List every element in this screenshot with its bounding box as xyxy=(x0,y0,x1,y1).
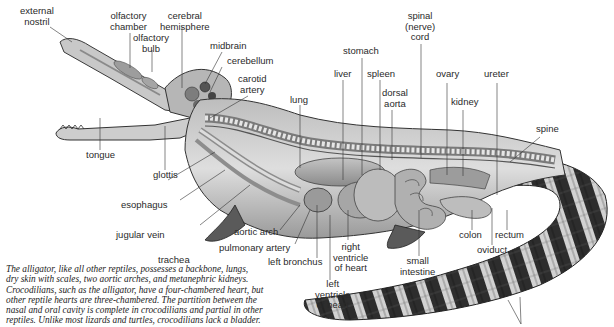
label-carotid-artery: carotid artery xyxy=(238,74,267,95)
caption-line: nasal and oral cavity is complete in cro… xyxy=(6,305,306,315)
label-jugular-vein: jugular vein xyxy=(116,230,165,241)
label-lung: lung xyxy=(290,95,308,106)
label-kidney: kidney xyxy=(451,97,478,108)
label-cerebral-hemisphere: cerebral hemisphere xyxy=(160,11,210,32)
caption-line: reptiles. Unlike most lizards and turtle… xyxy=(6,315,306,325)
label-pulmonary-artery: pulmonary artery xyxy=(219,243,290,254)
label-olfactory-chamber: olfactory chamber xyxy=(110,11,147,32)
alligator-anatomy-diagram: external nostril olfactory chamber olfac… xyxy=(0,0,614,327)
label-glottis: glottis xyxy=(153,170,178,181)
label-esophagus: esophagus xyxy=(121,200,167,211)
label-spine: spine xyxy=(536,124,559,135)
label-right-ventricle: right ventricle of heart xyxy=(333,242,368,274)
label-tongue: tongue xyxy=(86,150,115,161)
figure-caption: The alligator, like all other reptiles, … xyxy=(6,264,306,326)
caption-line: Crocodilians, such as the alligator, hav… xyxy=(6,285,306,295)
caption-line: dry skin with scales, two aortic arches,… xyxy=(6,274,306,284)
heart xyxy=(304,188,332,212)
label-midbrain: midbrain xyxy=(210,41,246,52)
label-colon: colon xyxy=(459,230,482,241)
label-ureter: ureter xyxy=(484,69,509,80)
label-left-ventricle: left ventricle of heart xyxy=(315,279,350,311)
label-oviduct: oviduct xyxy=(477,245,507,256)
label-liver: liver xyxy=(334,69,351,80)
label-spinal-cord: spinal (nerve) cord xyxy=(405,11,435,43)
label-aortic-arch: aortic arch xyxy=(234,227,278,238)
caption-line: other reptile hearts are three-chambered… xyxy=(6,295,306,305)
label-dorsal-aorta: dorsal aorta xyxy=(382,88,408,109)
label-small-intestine: small intestine xyxy=(400,256,435,277)
label-cerebellum: cerebellum xyxy=(227,56,273,67)
label-rectum: rectum xyxy=(495,230,524,241)
caption-line: The alligator, like all other reptiles, … xyxy=(6,264,306,274)
label-external-nostril: external nostril xyxy=(20,6,54,27)
label-olfactory-bulb: olfactory bulb xyxy=(133,33,169,54)
label-ovary: ovary xyxy=(436,69,459,80)
label-stomach: stomach xyxy=(343,46,379,57)
label-spleen: spleen xyxy=(367,69,395,80)
